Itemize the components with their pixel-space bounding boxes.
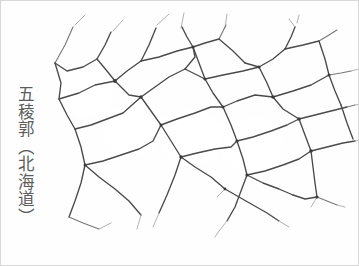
top-open-joint-stubs (75, 13, 299, 31)
figure-caption-vertical: 五稜郭（北海道） (7, 85, 33, 225)
figure-page: 五稜郭（北海道） (0, 0, 359, 266)
masonry-diagram-svg (37, 1, 359, 266)
masonry-diagram (37, 1, 359, 266)
right-open-joint-stubs (337, 69, 359, 207)
masonry-joints-lower (69, 151, 337, 237)
